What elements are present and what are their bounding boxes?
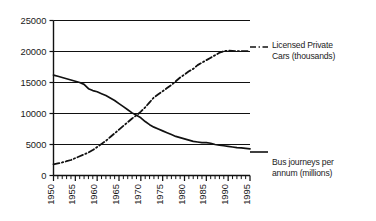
y-tick-label: 10000 bbox=[20, 108, 46, 119]
y-tick-label: 20000 bbox=[20, 46, 46, 57]
x-tick-label: 1960 bbox=[88, 184, 99, 205]
line-chart-figure: 0500010000150002000025000 19501955196019… bbox=[0, 0, 376, 221]
y-tick-labels-group: 0500010000150002000025000 bbox=[20, 15, 46, 181]
x-tick-label: 1985 bbox=[197, 184, 208, 205]
y-tick-label: 15000 bbox=[20, 77, 46, 88]
x-tick-label: 1965 bbox=[110, 184, 121, 205]
series-line bbox=[54, 51, 251, 165]
series-group bbox=[54, 51, 251, 165]
legend-bus-journeys: Bus journeys per annum (millions) bbox=[272, 157, 334, 179]
legend-bus-line2: annum (millions) bbox=[272, 168, 334, 179]
x-axis-group bbox=[54, 176, 251, 182]
legend-cars-line2: Cars (thousands) bbox=[272, 51, 335, 62]
series-line bbox=[54, 75, 251, 149]
x-tick-labels-group: 1950195519601965197019751980198519901995 bbox=[45, 184, 253, 205]
x-tick-label: 1955 bbox=[66, 184, 77, 205]
y-tick-label: 25000 bbox=[20, 15, 46, 26]
x-tick-label: 1970 bbox=[132, 184, 143, 205]
legend-licensed-private-cars: Licensed Private Cars (thousands) bbox=[272, 40, 335, 62]
legend-bus-line1: Bus journeys per bbox=[272, 157, 334, 167]
legend-marker-group bbox=[250, 47, 268, 152]
x-tick-label: 1980 bbox=[176, 184, 187, 205]
y-axis-group bbox=[50, 21, 54, 176]
x-tick-label: 1995 bbox=[241, 184, 252, 205]
chart-svg: 0500010000150002000025000 19501955196019… bbox=[0, 0, 376, 221]
x-tick-label: 1950 bbox=[45, 184, 56, 205]
x-tick-label: 1975 bbox=[154, 184, 165, 205]
x-tick-label: 1990 bbox=[219, 184, 230, 205]
legend-cars-line1: Licensed Private bbox=[272, 40, 333, 50]
y-tick-label: 0 bbox=[41, 170, 46, 181]
y-tick-label: 5000 bbox=[26, 139, 47, 150]
